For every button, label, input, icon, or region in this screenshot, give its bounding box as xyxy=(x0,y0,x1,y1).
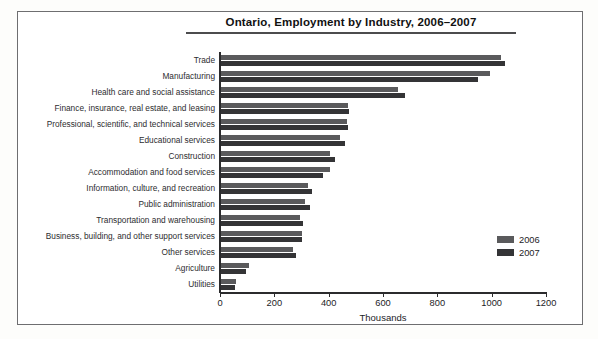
bar-group xyxy=(220,100,546,116)
x-tick-mark xyxy=(383,292,384,297)
bar-group xyxy=(220,276,546,292)
chart-row: Manufacturing xyxy=(220,68,546,84)
bar-2006 xyxy=(220,167,330,172)
bar-group xyxy=(220,164,546,180)
bar-2006 xyxy=(220,151,330,156)
x-tick-label: 1000 xyxy=(481,298,502,308)
x-tick-label: 400 xyxy=(321,298,337,308)
chart-row: Finance, insurance, real estate, and lea… xyxy=(220,100,546,116)
category-label: Accommodation and food services xyxy=(88,167,215,177)
bar-2007 xyxy=(220,125,348,130)
page-title: Ontario, Employment by Industry, 2006–20… xyxy=(186,16,516,28)
bar-2006 xyxy=(220,183,308,188)
x-tick-label: 200 xyxy=(267,298,283,308)
legend-swatch-2007 xyxy=(497,249,514,256)
category-label: Health care and social assistance xyxy=(91,87,215,97)
category-label: Information, culture, and recreation xyxy=(86,183,215,193)
bar-2006 xyxy=(220,279,236,284)
x-tick-mark xyxy=(274,292,275,297)
x-tick-mark xyxy=(546,292,547,297)
bar-2006 xyxy=(220,87,398,92)
bar-2007 xyxy=(220,141,345,146)
category-label: Trade xyxy=(194,55,215,65)
x-tick-label: 0 xyxy=(217,298,222,308)
x-tick-mark xyxy=(492,292,493,297)
legend-item-2006: 2006 xyxy=(497,233,540,246)
x-tick-label: 1200 xyxy=(536,298,557,308)
bar-2006 xyxy=(220,55,501,60)
bar-2006 xyxy=(220,263,249,268)
bar-2007 xyxy=(220,269,246,274)
bar-group xyxy=(220,84,546,100)
chart-title-block: Ontario, Employment by Industry, 2006–20… xyxy=(186,16,516,34)
bar-2007 xyxy=(220,205,310,210)
x-axis-label: Thousands xyxy=(220,312,546,323)
bar-group xyxy=(220,52,546,68)
bar-group xyxy=(220,132,546,148)
category-label: Educational services xyxy=(139,135,215,145)
chart-row: Utilities xyxy=(220,276,546,292)
category-label: Manufacturing xyxy=(162,71,215,81)
chart-row: Health care and social assistance xyxy=(220,84,546,100)
category-label: Public administration xyxy=(138,199,215,209)
chart-figure: Ontario, Employment by Industry, 2006–20… xyxy=(0,0,598,339)
chart-row: Agriculture xyxy=(220,260,546,276)
chart-row: Trade xyxy=(220,52,546,68)
bar-2006 xyxy=(220,103,348,108)
x-tick-mark xyxy=(329,292,330,297)
bar-2006 xyxy=(220,247,293,252)
bar-group xyxy=(220,68,546,84)
bar-2006 xyxy=(220,199,305,204)
bar-2007 xyxy=(220,285,235,290)
bar-2007 xyxy=(220,173,323,178)
bar-2006 xyxy=(220,135,340,140)
legend-label-2007: 2007 xyxy=(519,248,540,258)
bar-2006 xyxy=(220,231,302,236)
legend-label-2006: 2006 xyxy=(519,235,540,245)
chart-row: Accommodation and food services xyxy=(220,164,546,180)
category-label: Business, building, and other support se… xyxy=(46,231,215,241)
category-label: Finance, insurance, real estate, and lea… xyxy=(54,103,215,113)
category-label: Other services xyxy=(162,247,215,257)
y-axis-line xyxy=(219,52,221,293)
bar-2007 xyxy=(220,61,505,66)
category-label: Construction xyxy=(168,151,215,161)
legend-item-2007: 2007 xyxy=(497,246,540,259)
bar-2006 xyxy=(220,215,300,220)
bar-2007 xyxy=(220,109,349,114)
x-tick-label: 600 xyxy=(375,298,391,308)
chart-row: Construction xyxy=(220,148,546,164)
bar-2006 xyxy=(220,119,347,124)
bar-2007 xyxy=(220,253,296,258)
category-label: Agriculture xyxy=(175,263,215,273)
chart-legend: 2006 2007 xyxy=(497,233,540,259)
chart-row: Educational services xyxy=(220,132,546,148)
title-underline xyxy=(186,32,516,34)
bar-group xyxy=(220,260,546,276)
bar-2007 xyxy=(220,221,303,226)
bar-2006 xyxy=(220,71,490,76)
bar-2007 xyxy=(220,77,478,82)
bar-2007 xyxy=(220,157,335,162)
chart-row: Professional, scientific, and technical … xyxy=(220,116,546,132)
bar-group xyxy=(220,148,546,164)
bar-2007 xyxy=(220,93,405,98)
chart-row: Public administration xyxy=(220,196,546,212)
bar-group xyxy=(220,212,546,228)
bar-2007 xyxy=(220,189,312,194)
chart-row: Information, culture, and recreation xyxy=(220,180,546,196)
category-label: Professional, scientific, and technical … xyxy=(47,119,215,129)
bar-group xyxy=(220,116,546,132)
legend-swatch-2006 xyxy=(497,236,514,243)
x-tick-mark xyxy=(220,292,221,297)
bar-2007 xyxy=(220,237,302,242)
x-tick-label: 800 xyxy=(430,298,446,308)
x-tick-mark xyxy=(437,292,438,297)
bar-group xyxy=(220,196,546,212)
category-label: Transportation and warehousing xyxy=(96,215,215,225)
category-label: Utilities xyxy=(188,279,215,289)
bar-group xyxy=(220,180,546,196)
chart-row: Transportation and warehousing xyxy=(220,212,546,228)
